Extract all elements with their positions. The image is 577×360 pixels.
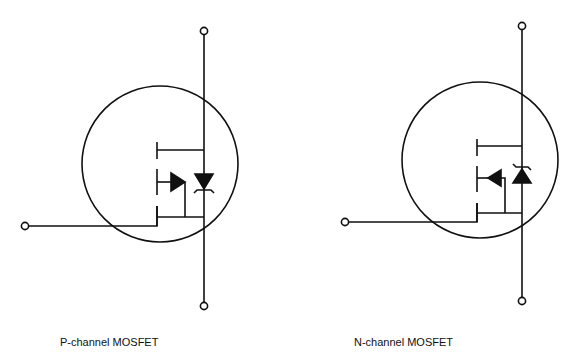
- source-terminal: [200, 302, 207, 309]
- n-channel-mosfet-symbol: [341, 22, 558, 304]
- envelope-circle: [82, 86, 238, 242]
- zener-diode-icon: [513, 169, 531, 183]
- envelope-circle: [402, 82, 558, 238]
- gate-lead: [349, 203, 477, 222]
- n-channel-caption: N-channel MOSFET: [354, 336, 453, 348]
- p-channel-mosfet-symbol: [21, 27, 238, 309]
- arrow-icon: [171, 173, 185, 191]
- gate-terminal: [21, 222, 28, 229]
- gate-lead: [29, 206, 157, 226]
- gate-terminal: [341, 218, 348, 225]
- drain-terminal: [200, 27, 207, 34]
- p-channel-caption: P-channel MOSFET: [60, 336, 158, 348]
- mosfet-diagrams: [0, 0, 577, 360]
- drain-terminal: [518, 22, 525, 29]
- arrow-icon: [488, 170, 501, 186]
- zener-diode-icon: [195, 174, 213, 189]
- source-terminal: [518, 297, 525, 304]
